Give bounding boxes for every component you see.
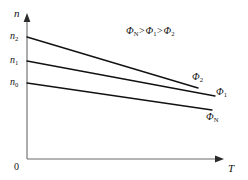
curve-label-phi2: Φ2 — [192, 72, 203, 83]
curve-label-phiN: ΦN — [206, 112, 218, 123]
y-axis-label: n — [14, 8, 20, 19]
data-line-phi1 — [27, 61, 215, 96]
inequality-term-1-sub: N — [134, 30, 139, 37]
curve-label-phi2-base: Φ — [192, 71, 200, 82]
origin-label: 0 — [14, 162, 19, 172]
data-line-phi2 — [27, 37, 198, 88]
data-line-phiN — [27, 83, 212, 110]
inequality-term-3-sub: 2 — [171, 30, 174, 37]
y-tick-label-n2: n2 — [10, 31, 18, 42]
x-axis-label: T — [228, 163, 234, 174]
y-tick-n2-sub: 2 — [15, 35, 18, 42]
curve-label-phi1-sub: 1 — [224, 91, 227, 98]
plot-canvas — [0, 0, 248, 180]
curve-label-phiN-base: Φ — [206, 111, 214, 122]
curve-label-phi1-base: Φ — [216, 86, 224, 97]
y-axis-arrowhead — [24, 13, 31, 22]
y-tick-n0-sub: 0 — [15, 81, 18, 88]
x-axis-arrowhead — [215, 156, 224, 163]
curve-label-phi1: Φ1 — [216, 87, 227, 98]
y-tick-n1-sub: 1 — [15, 59, 18, 66]
y-tick-label-n0: n0 — [10, 77, 18, 88]
inequality-term-1-base: Φ — [126, 25, 134, 36]
curve-label-phi2-sub: 2 — [200, 76, 203, 83]
inequality-annotation: ΦN>Φ1>Φ2 — [126, 26, 174, 37]
chart-figure: n T 0 n2 n1 n0 ΦN>Φ1>Φ2 Φ2 Φ1 ΦN — [0, 0, 248, 180]
curve-label-phiN-sub: N — [214, 116, 219, 123]
y-tick-label-n1: n1 — [10, 55, 18, 66]
